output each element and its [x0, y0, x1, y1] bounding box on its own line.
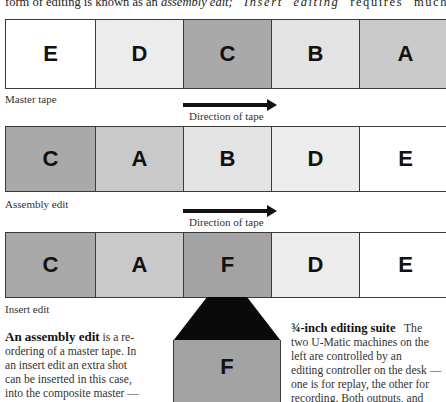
inserted-shot-box: F	[173, 340, 281, 402]
tape-segment-d: D	[272, 233, 360, 297]
tape-segment-e: E	[6, 20, 96, 88]
direction-label: Direction of tape	[189, 216, 264, 228]
description-line: into the composite master —	[5, 387, 165, 401]
tape-segment-b: B	[272, 20, 360, 88]
suite-line: two U-Matic machines on the	[291, 336, 446, 350]
segment-letter: A	[132, 252, 148, 278]
insert-funnel-icon	[173, 297, 281, 341]
insert-edit-label: Insert edit	[5, 303, 49, 315]
header-right-text: Insert editing requires much more	[244, 0, 446, 10]
description-line: is a re-	[100, 331, 134, 344]
segment-letter: D	[308, 146, 324, 172]
tape-segment-a: A	[96, 233, 184, 297]
segment-letter: D	[308, 252, 324, 278]
segment-letter: C	[43, 252, 59, 278]
inserted-shot-letter: F	[220, 354, 233, 380]
tape-segment-c: C	[6, 127, 96, 191]
master-tape-label: Master tape	[5, 93, 57, 105]
suite-line: left are controlled by an	[291, 350, 446, 364]
header-left-text: form of editing is known as an assembly …	[5, 0, 233, 10]
suite-line: recording. Both outputs, and	[291, 392, 446, 402]
segment-letter: E	[398, 146, 413, 172]
description-line: an insert edit an extra shot	[5, 359, 165, 373]
tape-segment-d: D	[96, 20, 184, 88]
segment-letter: E	[398, 252, 413, 278]
editing-suite-description: ¾-inch editing suite The two U-Matic mac…	[291, 321, 446, 402]
header-right-suffix: requires much more	[339, 0, 446, 9]
tape-segment-a: A	[360, 20, 446, 88]
tape-segment-e: E	[360, 233, 446, 297]
suite-line: one is for replay, the other for	[291, 378, 446, 392]
tape-segment-d: D	[272, 127, 360, 191]
tape-segment-e: E	[360, 127, 446, 191]
tape-segment-b: B	[184, 127, 272, 191]
segment-letter: D	[132, 41, 148, 67]
header-left-emphasis: assembly edit;	[161, 0, 233, 9]
description-line: ordering of a master tape. In	[5, 345, 165, 359]
tape-segment-f: F	[184, 233, 272, 297]
master-tape-row: EDCBA	[5, 19, 446, 89]
description-line: can be inserted in this case,	[5, 373, 165, 387]
description-lead: An assembly edit	[5, 329, 100, 344]
assembly-edit-description: An assembly edit is a re- ordering of a …	[5, 330, 165, 402]
segment-letter: A	[132, 146, 148, 172]
tape-segment-c: C	[6, 233, 96, 297]
assembly-edit-row: CABDE	[5, 126, 446, 192]
header-right-emphasis: Insert editing	[244, 0, 339, 9]
segment-letter: C	[220, 41, 236, 67]
segment-letter: B	[220, 146, 236, 172]
suite-lead: ¾-inch editing suite	[291, 321, 396, 335]
suite-line: The	[396, 322, 423, 335]
segment-letter: B	[308, 41, 324, 67]
segment-letter: C	[43, 146, 59, 172]
insert-edit-row: CAFDE	[5, 232, 446, 298]
segment-letter: A	[398, 41, 414, 67]
tape-segment-c: C	[184, 20, 272, 88]
assembly-edit-label: Assembly edit	[5, 198, 68, 210]
segment-letter: E	[43, 41, 58, 67]
tape-segment-a: A	[96, 127, 184, 191]
suite-line: editing controller on the desk —	[291, 364, 446, 378]
header-left-prefix: form of editing is known as an	[5, 0, 161, 9]
segment-letter: F	[221, 252, 234, 278]
direction-label: Direction of tape	[189, 110, 264, 122]
